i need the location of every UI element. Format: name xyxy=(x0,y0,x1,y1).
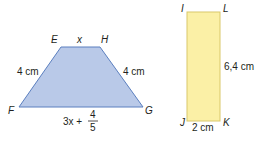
side-ef-label: 4 cm xyxy=(17,66,39,77)
vertex-l-label: L xyxy=(223,3,229,14)
fraction-denominator: 5 xyxy=(90,122,96,133)
vertex-k-label: K xyxy=(223,117,231,128)
side-jk-label: 2 cm xyxy=(192,122,214,133)
vertex-e-label: E xyxy=(51,34,58,45)
side-fg-label: 3x + xyxy=(63,116,82,127)
trapezoid-efgh xyxy=(19,47,143,107)
rectangle-ijkl xyxy=(187,12,220,121)
geometry-diagram: E H F G x 4 cm 4 cm 3x + 4 5 I L J K 6,4… xyxy=(0,0,267,143)
vertex-g-label: G xyxy=(145,105,153,116)
fraction-numerator: 4 xyxy=(90,109,96,120)
vertex-i-label: I xyxy=(181,3,184,14)
side-lk-label: 6,4 cm xyxy=(224,61,254,72)
side-eh-label: x xyxy=(76,34,83,45)
vertex-f-label: F xyxy=(8,105,15,116)
vertex-h-label: H xyxy=(101,34,109,45)
vertex-j-label: J xyxy=(179,117,186,128)
side-hg-label: 4 cm xyxy=(123,66,145,77)
